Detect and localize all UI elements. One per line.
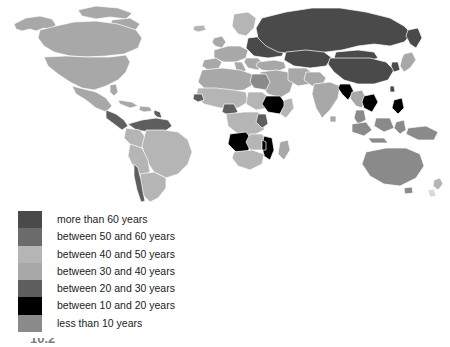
legend-item: between 50 and 60 years <box>18 228 308 245</box>
region-philippines <box>392 98 404 114</box>
figure-caption-text: 10.2 <box>30 338 55 346</box>
region-new-zealand-south <box>428 189 436 197</box>
legend-label-20-to-30: between 20 and 30 years <box>57 280 175 297</box>
region-iceland <box>193 25 206 32</box>
legend-label-50-to-60: between 50 and 60 years <box>57 228 175 245</box>
region-new-guinea <box>406 126 438 140</box>
region-central-america <box>106 110 128 130</box>
legend-swatch-20-to-30 <box>18 280 42 297</box>
figure-caption-cutoff: 10.2 <box>30 338 210 347</box>
region-malaysia <box>354 110 366 124</box>
region-united-states <box>44 55 130 90</box>
region-china <box>328 58 394 84</box>
legend-swatch-more-than-60 <box>18 211 42 228</box>
region-west-africa-coast <box>193 94 204 102</box>
region-java <box>368 138 388 143</box>
region-sri-lanka <box>330 116 336 122</box>
region-sulawesi <box>394 120 406 134</box>
legend-swatch-30-to-40 <box>18 263 42 280</box>
region-vietnam <box>362 94 378 112</box>
region-russia <box>256 8 412 54</box>
legend-swatch-50-to-60 <box>18 228 42 245</box>
legend-label-40-to-50: between 40 and 50 years <box>57 246 175 263</box>
legend-swatch-10-to-20 <box>18 297 42 314</box>
legend-item: more than 60 years <box>18 211 308 228</box>
map-figure: more than 60 years between 50 and 60 yea… <box>0 0 450 347</box>
region-turkey <box>256 60 286 72</box>
region-taiwan <box>390 86 395 92</box>
legend-item: between 10 and 20 years <box>18 297 308 314</box>
region-hispaniola <box>139 106 152 112</box>
legend-label-30-to-40: between 30 and 40 years <box>57 263 175 280</box>
world-map <box>0 0 450 205</box>
region-sahel <box>196 88 248 108</box>
legend-item: between 30 and 40 years <box>18 263 308 280</box>
region-tasmania <box>404 187 413 194</box>
region-australia <box>362 148 424 186</box>
region-south-africa <box>232 150 264 170</box>
region-malawi <box>262 140 266 150</box>
region-sumatra <box>352 122 372 136</box>
region-madagascar <box>278 140 290 160</box>
region-western-europe <box>214 46 248 62</box>
world-map-svg <box>0 0 450 205</box>
region-united-kingdom <box>212 36 226 48</box>
region-borneo <box>374 118 394 132</box>
region-india <box>312 82 340 118</box>
legend-label-less-than-10: less than 10 years <box>57 315 142 332</box>
region-central-asia <box>284 50 332 68</box>
region-scandinavia <box>232 12 256 36</box>
region-japan <box>400 52 416 72</box>
region-new-zealand <box>433 178 443 190</box>
region-lesser-antilles <box>154 110 162 118</box>
legend-label-more-than-60: more than 60 years <box>57 211 147 228</box>
region-cuba <box>118 100 138 108</box>
legend-swatch-40-to-50 <box>18 246 42 263</box>
region-kamchatka <box>406 28 422 48</box>
legend-item: between 40 and 50 years <box>18 246 308 263</box>
legend-item: less than 10 years <box>18 315 308 332</box>
legend-swatch-less-than-10 <box>18 315 42 332</box>
region-florida <box>110 84 118 96</box>
legend-label-10-to-20: between 10 and 20 years <box>57 297 175 314</box>
map-legend: more than 60 years between 50 and 60 yea… <box>18 211 308 332</box>
region-egypt <box>250 74 270 90</box>
region-canada-arctic <box>78 6 132 19</box>
legend-item: between 20 and 30 years <box>18 280 308 297</box>
